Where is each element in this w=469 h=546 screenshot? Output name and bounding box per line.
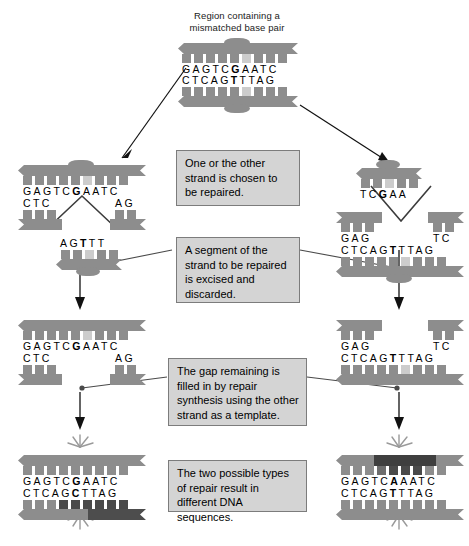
rm-sequence-upper-right: TC <box>433 233 452 244</box>
rf-sequence-lower: CTCAGTTTAG <box>341 488 435 499</box>
bottom-rungs <box>182 87 287 96</box>
rm-top-backbone-left <box>336 212 382 223</box>
panel-right-strand-nicked: TCGAA GAG TC CTCAGTTTAG <box>336 168 464 258</box>
rf-top-rungs <box>341 466 446 475</box>
starburst-right-top <box>387 435 412 447</box>
panel-repaired-gc-duplex: GAGTCGAATC CTCAGCTTAG <box>18 455 146 517</box>
lf-bottom-rungs <box>23 500 128 509</box>
lf-top-backbone <box>18 455 146 466</box>
rm-top-backbone-right <box>428 212 464 223</box>
panel-mismatched-duplex: GAGTCGAATC CTCAGTTTAG <box>178 38 298 100</box>
lm-excised-rungs <box>61 250 118 259</box>
starburst-left-top <box>68 435 93 447</box>
lm-bottom-backbone-right <box>110 219 146 230</box>
rg-bottom-rungs <box>341 365 446 374</box>
lm-sequence-lower-left: CTC <box>23 198 52 209</box>
lf-top-rungs <box>23 466 128 475</box>
panel-right-gapped-duplex: GAG TC CTCAGTTTAG <box>336 320 464 382</box>
rg-sequence-upper-right: TC <box>433 341 452 352</box>
rg-top-backbone-right <box>428 320 464 331</box>
bottom-bulge <box>224 104 250 113</box>
lg-top-rungs <box>23 331 128 340</box>
callout-step-4: The two possible types of repair result … <box>168 460 307 512</box>
top-sequence-lower: CTCAGTTTAG <box>182 75 276 86</box>
lg-sequence-upper: GAGTCGAATC <box>23 341 120 352</box>
panel-left-strand-nicked: GAGTCGAATC CTC AG AGTTT <box>18 160 146 250</box>
lf-sequence-upper: GAGTCGAATC <box>23 476 120 487</box>
panel-repaired-at-duplex: GAGTCAAATC CTCAGTTTAG <box>336 455 464 517</box>
lg-bottom-rungs-right <box>115 365 136 374</box>
rf-bottom-rungs <box>341 500 446 509</box>
rg-top-rungs-right <box>433 331 454 340</box>
lm-bottom-backbone-left <box>18 219 62 230</box>
rf-top-backbone-new <box>336 455 464 466</box>
rg-bottom-backbone <box>336 374 464 385</box>
lg-top-backbone <box>18 320 146 331</box>
rm-top-rungs-left <box>341 223 374 232</box>
rg-top-backbone-left <box>336 320 382 331</box>
rm-excised-bulge <box>376 160 400 169</box>
rm-sequence-lower: CTCAGTTTAG <box>341 245 435 256</box>
rm-bottom-bulge <box>386 274 412 283</box>
rm-bottom-rungs <box>341 257 446 266</box>
synthesis-arrow-left <box>75 392 85 430</box>
lg-bottom-rungs-left <box>23 365 56 374</box>
lf-bottom-backbone-new <box>18 509 146 520</box>
lm-bottom-rungs-left <box>23 210 56 219</box>
callout-step-3: The gap remaining is filled in by repair… <box>168 358 307 426</box>
lg-bottom-backbone-left <box>18 374 62 385</box>
rm-top-rungs-right <box>433 223 454 232</box>
rm-excised-sequence: TCGAA <box>360 189 408 200</box>
lg-sequence-lower-left: CTC <box>23 353 52 364</box>
synthesis-arrow-right <box>394 392 404 430</box>
rg-sequence-upper-left: GAG <box>341 341 372 352</box>
rf-bottom-backbone <box>336 509 464 520</box>
lm-excised-bulge <box>76 267 100 276</box>
lg-bottom-backbone-right <box>110 374 146 385</box>
branch-arrow-right <box>300 105 390 163</box>
lm-excised-sequence: AGTTT <box>60 238 106 249</box>
lm-sequence-upper: GAGTCGAATC <box>23 186 120 197</box>
rm-excised-backbone <box>356 168 422 179</box>
top-rungs <box>182 54 287 63</box>
lm-sequence-lower-right: AG <box>115 198 135 209</box>
lf-sequence-lower: CTCAGCTTAG <box>23 488 119 499</box>
lm-top-rungs <box>23 176 128 185</box>
rm-sequence-upper-left: GAG <box>341 233 372 244</box>
diagram-canvas: Region containing a mismatched base pair <box>0 0 469 546</box>
panel-left-gapped-duplex: GAGTCGAATC CTC AG <box>18 320 146 382</box>
rf-sequence-upper: GAGTCAAATC <box>341 476 437 487</box>
lm-top-backbone <box>18 165 146 176</box>
branch-arrow-left <box>122 68 186 158</box>
top-backbone <box>178 43 298 54</box>
lm-bottom-rungs-right <box>115 210 136 219</box>
lg-sequence-lower-right: AG <box>115 353 135 364</box>
rm-excised-rungs <box>361 179 418 188</box>
rg-sequence-lower: CTCAGTTTAG <box>341 353 435 364</box>
callout-step-2: A segment of the strand to be repaired i… <box>176 237 300 303</box>
callout-step-1: One or the other strand is chosen to be … <box>176 150 300 206</box>
rg-top-rungs-left <box>341 331 374 340</box>
